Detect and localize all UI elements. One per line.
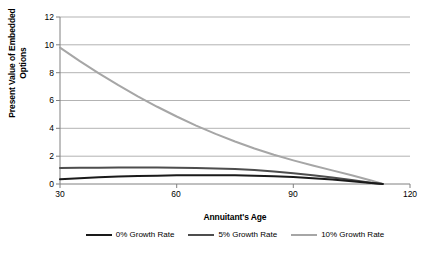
- series-line-0pct: [60, 175, 383, 184]
- legend-swatch-5pct: [188, 234, 214, 236]
- legend-swatch-0pct: [86, 234, 112, 236]
- legend-item-10pct: 10% Growth Rate: [291, 230, 384, 239]
- series-line-10pct: [60, 48, 383, 184]
- legend-item-5pct: 5% Growth Rate: [188, 230, 277, 239]
- legend-label-5pct: 5% Growth Rate: [218, 230, 277, 239]
- legend-label-0pct: 0% Growth Rate: [116, 230, 175, 239]
- series-lines: [60, 48, 383, 184]
- legend-label-10pct: 10% Growth Rate: [321, 230, 384, 239]
- legend-swatch-10pct: [291, 234, 317, 236]
- legend-item-0pct: 0% Growth Rate: [86, 230, 175, 239]
- chart-legend: 0% Growth Rate 5% Growth Rate 10% Growth…: [60, 230, 410, 239]
- axis-lines: [56, 17, 410, 188]
- gridlines: [60, 17, 410, 156]
- chart-container: Present Value of Embedded Options 12 10 …: [0, 0, 432, 258]
- x-axis-label: Annuitant's Age: [60, 212, 410, 222]
